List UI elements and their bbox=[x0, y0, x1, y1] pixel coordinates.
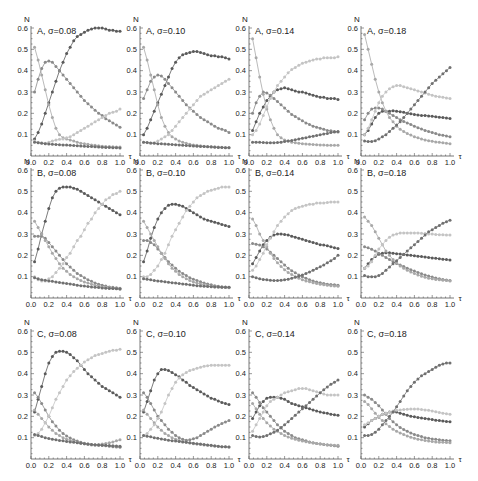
panel-title: B, σ=0.14 bbox=[255, 168, 294, 178]
data-point bbox=[40, 278, 43, 281]
data-point bbox=[420, 128, 423, 131]
data-point bbox=[104, 387, 107, 390]
data-point bbox=[111, 121, 114, 124]
data-point bbox=[255, 56, 258, 59]
data-point bbox=[185, 274, 188, 277]
data-point bbox=[51, 140, 54, 143]
data-point bbox=[142, 97, 145, 100]
data-point bbox=[115, 192, 118, 195]
data-point bbox=[58, 429, 61, 432]
data-point bbox=[97, 353, 100, 356]
data-point bbox=[171, 135, 174, 138]
panel-c-sigma-0_1: 0.00.20.40.60.81.00.10.20.30.40.50.6NτC,… bbox=[127, 318, 242, 470]
data-point bbox=[192, 437, 195, 440]
x-tick-label: 0.8 bbox=[315, 158, 325, 167]
data-point bbox=[163, 207, 166, 210]
data-point bbox=[69, 273, 72, 276]
data-point bbox=[119, 126, 122, 129]
data-point bbox=[149, 278, 152, 281]
data-point bbox=[192, 368, 195, 371]
data-point bbox=[258, 436, 261, 439]
data-point bbox=[146, 275, 149, 278]
data-point bbox=[445, 258, 448, 261]
x-tick-label: 0.4 bbox=[170, 300, 180, 309]
x-tick-label: 0.2 bbox=[153, 158, 163, 167]
data-point bbox=[79, 129, 82, 132]
panel-b-sigma-0_14: 0.00.20.40.60.81.00.10.20.30.40.50.6NτB,… bbox=[236, 157, 351, 309]
data-point bbox=[54, 80, 57, 83]
data-point bbox=[86, 358, 89, 361]
data-point bbox=[72, 275, 75, 278]
data-point bbox=[445, 362, 448, 365]
data-point bbox=[174, 228, 177, 231]
data-point bbox=[47, 279, 50, 282]
data-point bbox=[44, 408, 47, 411]
data-point bbox=[210, 189, 213, 192]
data-point bbox=[217, 364, 220, 367]
data-point bbox=[199, 145, 202, 148]
data-point bbox=[388, 266, 391, 269]
data-point bbox=[255, 265, 258, 268]
data-point bbox=[420, 435, 423, 438]
panel-a-sigma-0_14: 0.00.20.40.60.81.00.10.20.30.40.50.6NτA,… bbox=[236, 15, 351, 167]
data-point bbox=[384, 239, 387, 242]
data-point bbox=[90, 123, 93, 126]
data-point bbox=[192, 211, 195, 214]
x-tick-label: 1.0 bbox=[224, 300, 234, 309]
data-point bbox=[319, 442, 322, 445]
y-tick-label: 0.6 bbox=[127, 327, 137, 336]
data-point bbox=[108, 146, 111, 149]
data-point bbox=[258, 244, 261, 247]
data-point bbox=[149, 73, 152, 76]
y-tick-label: 0.3 bbox=[18, 230, 28, 239]
data-point bbox=[111, 444, 114, 447]
data-point bbox=[104, 287, 107, 290]
data-point bbox=[251, 129, 254, 132]
data-point bbox=[420, 374, 423, 377]
data-point bbox=[160, 142, 163, 145]
data-point bbox=[83, 285, 86, 288]
x-tick-label: 0.6 bbox=[188, 300, 198, 309]
data-point bbox=[44, 372, 47, 375]
data-point bbox=[101, 352, 104, 355]
data-point bbox=[40, 123, 43, 126]
data-point bbox=[224, 364, 227, 367]
data-point bbox=[181, 272, 184, 275]
data-point bbox=[283, 434, 286, 437]
data-point bbox=[312, 269, 315, 272]
y-tick-label: 0.2 bbox=[236, 251, 246, 260]
data-point bbox=[449, 420, 452, 423]
data-point bbox=[251, 133, 254, 136]
data-point bbox=[111, 146, 114, 149]
data-point bbox=[445, 220, 448, 223]
data-point bbox=[402, 85, 405, 88]
y-tick-label: 0.1 bbox=[236, 433, 246, 442]
y-tick-label: 0.4 bbox=[18, 208, 28, 217]
data-point bbox=[69, 252, 72, 255]
data-point bbox=[65, 440, 68, 443]
data-point bbox=[224, 286, 227, 289]
data-point bbox=[108, 29, 111, 32]
data-point bbox=[111, 349, 114, 352]
data-point bbox=[54, 127, 57, 130]
data-point bbox=[178, 376, 181, 379]
data-point bbox=[44, 142, 47, 145]
data-point bbox=[86, 285, 89, 288]
data-point bbox=[333, 444, 336, 447]
x-tick-label: 0.8 bbox=[427, 461, 437, 470]
data-point bbox=[220, 128, 223, 131]
data-point bbox=[44, 239, 47, 242]
data-point bbox=[72, 39, 75, 42]
data-point bbox=[251, 430, 254, 433]
data-point bbox=[178, 56, 181, 59]
data-point bbox=[363, 140, 366, 143]
series-line-s5 bbox=[365, 67, 450, 141]
data-point bbox=[51, 252, 54, 255]
data-point bbox=[434, 226, 437, 229]
data-point bbox=[149, 273, 152, 276]
data-point bbox=[51, 438, 54, 441]
data-point bbox=[174, 61, 177, 64]
data-point bbox=[156, 426, 159, 429]
data-point bbox=[153, 279, 156, 282]
data-point bbox=[86, 372, 89, 375]
